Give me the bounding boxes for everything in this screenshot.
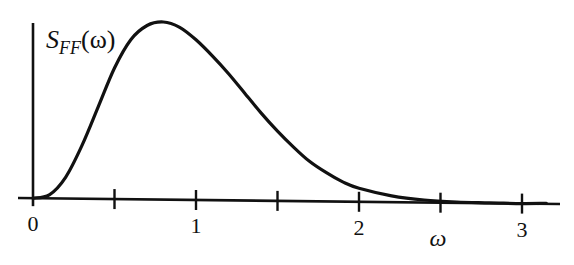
y-axis-label: SFF(ω): [46, 25, 115, 58]
spectral-density-chart: 0123 SFF(ω) ω: [0, 0, 574, 265]
x-tick-label: 0: [28, 211, 39, 236]
x-tick-labels: 0123: [28, 211, 528, 241]
x-tick-label: 3: [517, 217, 528, 242]
x-tick-label: 1: [191, 213, 202, 238]
x-tick-label: 2: [354, 215, 365, 240]
x-axis-label: ω: [430, 225, 447, 251]
